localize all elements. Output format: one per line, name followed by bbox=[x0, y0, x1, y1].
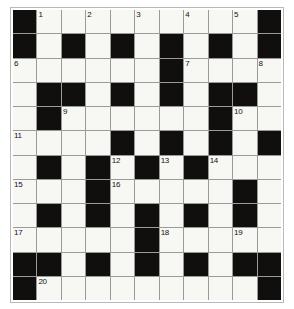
crossword-cell[interactable] bbox=[209, 277, 232, 300]
crossword-cell[interactable] bbox=[111, 10, 134, 33]
crossword-cell[interactable] bbox=[135, 107, 158, 130]
crossword-block bbox=[13, 253, 36, 276]
crossword-cell[interactable] bbox=[111, 59, 134, 82]
crossword-cell[interactable] bbox=[233, 277, 256, 300]
crossword-cell[interactable] bbox=[184, 107, 207, 130]
crossword-cell[interactable] bbox=[233, 131, 256, 154]
clue-number: 8 bbox=[259, 59, 263, 68]
crossword-cell[interactable] bbox=[135, 34, 158, 57]
crossword-cell[interactable] bbox=[13, 204, 36, 227]
crossword-cell[interactable] bbox=[86, 277, 109, 300]
crossword-cell[interactable] bbox=[258, 156, 281, 179]
crossword-cell[interactable] bbox=[160, 253, 183, 276]
crossword-cell[interactable] bbox=[37, 59, 60, 82]
crossword-cell[interactable]: 17 bbox=[13, 228, 36, 251]
crossword-cell[interactable]: 6 bbox=[13, 59, 36, 82]
crossword-cell[interactable] bbox=[184, 277, 207, 300]
crossword-cell[interactable] bbox=[86, 59, 109, 82]
crossword-cell[interactable]: 19 bbox=[233, 228, 256, 251]
crossword-cell[interactable] bbox=[233, 34, 256, 57]
crossword-cell[interactable] bbox=[37, 131, 60, 154]
crossword-cell[interactable]: 8 bbox=[258, 59, 281, 82]
crossword-cell[interactable] bbox=[62, 10, 85, 33]
crossword-cell[interactable] bbox=[135, 180, 158, 203]
crossword-cell[interactable]: 10 bbox=[233, 107, 256, 130]
crossword-cell[interactable]: 14 bbox=[209, 156, 232, 179]
crossword-cell[interactable]: 3 bbox=[135, 10, 158, 33]
crossword-cell[interactable]: 16 bbox=[111, 180, 134, 203]
crossword-cell[interactable] bbox=[86, 107, 109, 130]
crossword-cell[interactable] bbox=[62, 180, 85, 203]
crossword-cell[interactable] bbox=[233, 59, 256, 82]
crossword-cell[interactable] bbox=[111, 228, 134, 251]
crossword-block bbox=[160, 131, 183, 154]
crossword-cell[interactable]: 13 bbox=[160, 156, 183, 179]
crossword-cell[interactable] bbox=[184, 34, 207, 57]
crossword-block bbox=[209, 34, 232, 57]
crossword-cell[interactable] bbox=[86, 131, 109, 154]
crossword-cell[interactable] bbox=[258, 83, 281, 106]
crossword-block bbox=[62, 83, 85, 106]
crossword-cell[interactable] bbox=[62, 228, 85, 251]
crossword-cell[interactable] bbox=[37, 34, 60, 57]
crossword-cell[interactable]: 7 bbox=[184, 59, 207, 82]
crossword-cell[interactable]: 15 bbox=[13, 180, 36, 203]
crossword-cell[interactable] bbox=[160, 10, 183, 33]
crossword-cell[interactable] bbox=[62, 277, 85, 300]
crossword-cell[interactable]: 9 bbox=[62, 107, 85, 130]
crossword-cell[interactable] bbox=[184, 131, 207, 154]
crossword-cell[interactable] bbox=[86, 34, 109, 57]
crossword-cell[interactable] bbox=[62, 204, 85, 227]
crossword-cell[interactable]: 1 bbox=[37, 10, 60, 33]
crossword-cell[interactable] bbox=[135, 83, 158, 106]
crossword-cell[interactable] bbox=[160, 180, 183, 203]
crossword-block bbox=[135, 228, 158, 251]
crossword-cell[interactable] bbox=[209, 180, 232, 203]
crossword-cell[interactable] bbox=[184, 180, 207, 203]
crossword-cell[interactable] bbox=[86, 228, 109, 251]
crossword-cell[interactable] bbox=[209, 59, 232, 82]
crossword-cell[interactable] bbox=[209, 253, 232, 276]
crossword-cell[interactable] bbox=[258, 204, 281, 227]
crossword-cell[interactable] bbox=[258, 228, 281, 251]
crossword-cell[interactable] bbox=[111, 253, 134, 276]
crossword-cell[interactable] bbox=[135, 277, 158, 300]
crossword-cell[interactable] bbox=[111, 277, 134, 300]
crossword-cell[interactable] bbox=[86, 83, 109, 106]
crossword-cell[interactable] bbox=[37, 180, 60, 203]
crossword-cell[interactable] bbox=[13, 83, 36, 106]
crossword-cell[interactable] bbox=[62, 59, 85, 82]
crossword-cell[interactable]: 18 bbox=[160, 228, 183, 251]
crossword-cell[interactable] bbox=[111, 204, 134, 227]
crossword-cell[interactable] bbox=[135, 131, 158, 154]
crossword-block bbox=[13, 34, 36, 57]
crossword-cell[interactable]: 12 bbox=[111, 156, 134, 179]
clue-number: 7 bbox=[185, 59, 189, 68]
crossword-cell[interactable] bbox=[258, 180, 281, 203]
crossword-cell[interactable] bbox=[13, 107, 36, 130]
crossword-cell[interactable] bbox=[209, 204, 232, 227]
crossword-cell[interactable]: 11 bbox=[13, 131, 36, 154]
crossword-grid[interactable]: 1234567891011121314151617181920 bbox=[13, 10, 281, 300]
crossword-cell[interactable] bbox=[135, 59, 158, 82]
clue-number: 18 bbox=[161, 228, 169, 237]
crossword-cell[interactable] bbox=[184, 83, 207, 106]
crossword-cell[interactable] bbox=[160, 107, 183, 130]
crossword-cell[interactable]: 5 bbox=[233, 10, 256, 33]
crossword-cell[interactable] bbox=[111, 107, 134, 130]
crossword-cell[interactable] bbox=[160, 204, 183, 227]
crossword-cell[interactable] bbox=[13, 156, 36, 179]
crossword-cell[interactable] bbox=[258, 107, 281, 130]
crossword-cell[interactable] bbox=[62, 156, 85, 179]
crossword-cell[interactable]: 4 bbox=[184, 10, 207, 33]
crossword-cell[interactable] bbox=[37, 228, 60, 251]
crossword-cell[interactable] bbox=[184, 228, 207, 251]
crossword-cell[interactable]: 2 bbox=[86, 10, 109, 33]
crossword-cell[interactable] bbox=[62, 131, 85, 154]
crossword-cell[interactable] bbox=[62, 253, 85, 276]
crossword-cell[interactable] bbox=[233, 156, 256, 179]
crossword-cell[interactable] bbox=[160, 277, 183, 300]
crossword-cell[interactable] bbox=[209, 228, 232, 251]
crossword-cell[interactable]: 20 bbox=[37, 277, 60, 300]
crossword-cell[interactable] bbox=[209, 10, 232, 33]
